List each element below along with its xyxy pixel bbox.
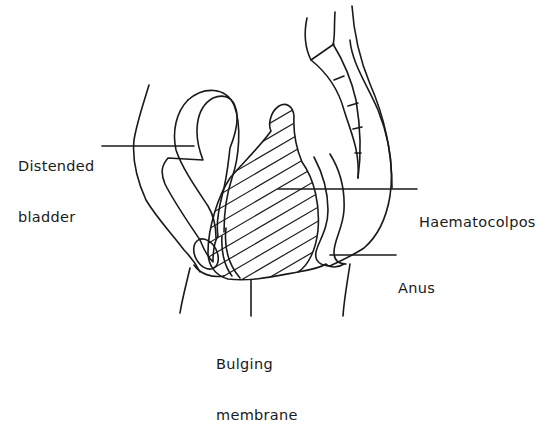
bladder-inner [188, 90, 239, 232]
label-haematocolpos: Haematocolpos [419, 180, 536, 248]
label-line: Distended [18, 158, 95, 175]
rectum-wall-front [314, 157, 330, 266]
label-bulging-membrane: Bulging membrane [216, 322, 298, 424]
label-line: membrane [216, 407, 298, 424]
rectum-wall-back [330, 154, 346, 264]
skin-line-front [180, 268, 190, 313]
label-line: Bulging [216, 356, 298, 373]
label-line: bladder [18, 209, 95, 226]
label-line: Anus [398, 280, 435, 297]
label-line: Haematocolpos [419, 214, 536, 231]
label-anus: Anus [398, 246, 435, 314]
label-distended-bladder: Distended bladder [18, 124, 95, 243]
skin-line-back [343, 264, 350, 316]
